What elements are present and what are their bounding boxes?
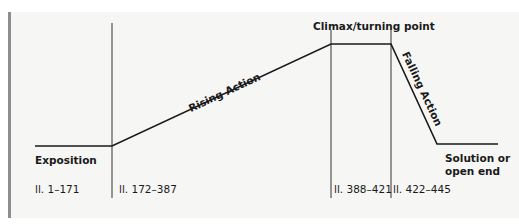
exposition-lines: ll. 1–171 [35,184,79,195]
exposition-label: Exposition [35,155,97,166]
solution-label-line1: Solution or [445,153,510,164]
climax-label: Climax/turning point [313,21,435,32]
solution-label-line2: open end [445,166,500,177]
climax-lines: ll. 388–421 [334,184,392,195]
rising-action-lines: ll. 172–387 [119,184,177,195]
falling-action-lines: ll. 422–445 [393,184,451,195]
